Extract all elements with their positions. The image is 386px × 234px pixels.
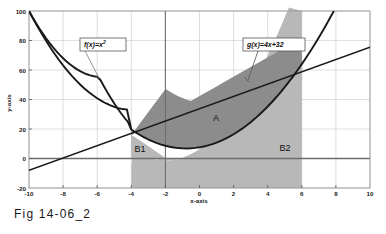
- x-tick-labels: -10 -8 -6 -4 -2 0 2 4 6 8 10: [25, 190, 374, 197]
- x-tick-label: 6: [300, 190, 304, 197]
- x-tick-label: 10: [367, 190, 374, 197]
- region-label-b2: B2: [279, 143, 290, 153]
- x-tick-label: 8: [334, 190, 338, 197]
- figure-caption: Fig 14-06_2: [14, 207, 91, 221]
- x-tick-label: -6: [94, 190, 100, 197]
- x-axis-title: x-axis: [190, 197, 208, 204]
- region-label-a: A: [213, 113, 219, 123]
- x-tick-label: -2: [163, 190, 169, 197]
- y-axis-title: y-axis: [5, 94, 12, 112]
- y-tick-label: -20: [17, 185, 27, 192]
- callout-f-base: f(x)=x: [84, 41, 104, 49]
- y-tick-label: 20: [19, 126, 26, 133]
- y-tick-label: 60: [19, 67, 26, 74]
- x-tick-label: 4: [266, 190, 270, 197]
- chart-plot: -10 -8 -6 -4 -2 0 2 4 6 8 10 -20 0 20 40…: [0, 0, 386, 234]
- callout-f-label: f(x)=x2: [84, 39, 106, 49]
- callout-g-label: g(x)=4x+32: [246, 41, 284, 49]
- y-tick-labels: -20 0 20 40 60 80 100: [16, 8, 27, 192]
- y-tick-label: 40: [19, 96, 26, 103]
- figure-container: -10 -8 -6 -4 -2 0 2 4 6 8 10 -20 0 20 40…: [0, 0, 386, 234]
- callout-f-exponent: 2: [102, 39, 106, 45]
- y-tick-label: 0: [23, 155, 27, 162]
- x-tick-label: -4: [129, 190, 135, 197]
- x-tick-label: 0: [198, 190, 202, 197]
- x-tick-label: -8: [60, 190, 66, 197]
- y-tick-label: 100: [16, 8, 27, 15]
- y-tick-label: 80: [19, 37, 26, 44]
- region-label-b1: B1: [134, 144, 145, 154]
- x-tick-label: 2: [232, 190, 236, 197]
